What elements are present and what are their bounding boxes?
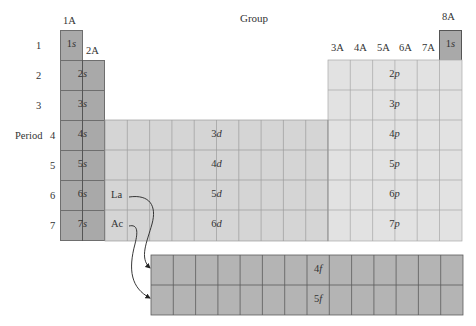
lanthanide-actinide-arrows [0, 0, 476, 326]
element-la: La [111, 189, 122, 200]
element-ac: Ac [111, 218, 123, 229]
ac-arrow-icon [129, 226, 150, 298]
